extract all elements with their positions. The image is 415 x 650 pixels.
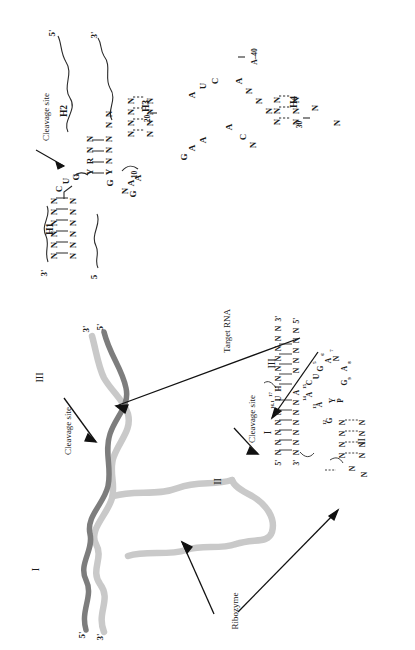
h4-right-nt: N (291, 119, 301, 126)
h3-left-nt: N (126, 109, 136, 116)
target-rna-label: Target RNA (222, 309, 232, 353)
core-bottom-nt: N (292, 430, 301, 435)
h2-lower-nt: N (104, 122, 114, 129)
h4-left-nt: N (272, 108, 282, 115)
h4-right-nt: N (291, 108, 301, 115)
stem2-right-nt: N (358, 420, 367, 425)
ribozyme-label: Ribozyme (230, 593, 240, 630)
core-bottom-nt: N (292, 450, 301, 455)
h2-lower-nt: N (104, 136, 114, 143)
core-res-base-a13: A (315, 402, 324, 407)
h3-right-nt: N (145, 109, 155, 116)
loop-nt: N (248, 142, 258, 149)
core-bottom-nt-a: A (292, 390, 301, 395)
core-top-three-prime: 3' (274, 316, 283, 322)
h4-left-nt: N (272, 97, 282, 104)
core-top-nt: N (274, 410, 283, 415)
h1-lower-nt: N (68, 242, 78, 249)
core-bottom-right-nt: N (292, 328, 301, 333)
h3-right-nt: N (145, 98, 155, 105)
loop-nt: A (187, 145, 197, 152)
core-top-nt: N (274, 440, 283, 445)
bot-three-prime-2: 3' (95, 633, 105, 640)
stem2-right-nt: N (358, 431, 367, 436)
core-res-num-9: 9 (347, 377, 352, 380)
core-top-nt: N (274, 336, 283, 341)
h4-left-nt: N (272, 119, 282, 126)
h4-tail-nt: N (310, 105, 320, 112)
h2-lower-nt: Y (104, 169, 114, 176)
core-res-base-u: U (312, 374, 321, 379)
h1-upper-nt: N (49, 220, 59, 227)
core-bottom-right-nt: N (292, 368, 301, 373)
h3-left-nt: N (126, 98, 136, 105)
core-bottom-right-nt: N (292, 358, 301, 363)
loop-nt: A (187, 92, 197, 99)
core-bottom-right-nt: N (292, 338, 301, 343)
h1-lower-nt: N (68, 253, 78, 260)
core-top-nt: N (274, 326, 283, 331)
loop-nt: A (234, 78, 244, 85)
core-res-base-a8: A (340, 366, 349, 371)
loop-nt: C (238, 134, 248, 141)
core-bottom-nt: N (292, 440, 301, 445)
core-top-nt: N (274, 420, 283, 425)
h2-upper-nt: N (85, 136, 95, 143)
h1-upper-nt: N (49, 209, 59, 216)
h2-upper-nt: N (85, 147, 95, 154)
stem-roman-I: I (30, 568, 41, 571)
stem2-left-nt: N (338, 431, 347, 436)
loop-nt: A (198, 137, 208, 144)
core-top-nt: N (274, 376, 283, 381)
core-top-nt: N (274, 346, 283, 351)
stem2-left-nt: N (338, 442, 347, 447)
cleavage-nt-g: G (71, 173, 81, 180)
h1-lower-nt: N (68, 220, 78, 227)
stem-roman-III: III (34, 373, 45, 383)
loop-nt: A (224, 124, 234, 131)
loop-nt: C (210, 78, 220, 85)
core-res-base-g12: G (325, 418, 334, 424)
h2-upper-nt: Y (85, 169, 95, 176)
core-bottom-right-nt: N (292, 348, 301, 353)
stem-label-h2: H2 (59, 105, 69, 117)
h4-tail-nt: N (332, 120, 342, 127)
top-three-prime-1: 3' (89, 31, 99, 38)
stem2-right-nt: N (358, 453, 367, 458)
core-res-base-n7: N (332, 356, 341, 361)
bot-five-prime-2: 5' (77, 631, 87, 638)
core-bottom-five-prime: 5' (292, 318, 301, 324)
core-res-base-g9: G (340, 380, 349, 386)
h1-upper-nt: N (49, 253, 59, 260)
h3-right-nt: N (145, 120, 155, 127)
core-top-nt: N (274, 430, 283, 435)
core-top-nt-h: H (274, 386, 283, 392)
core-bottom-nt: N (292, 400, 301, 405)
stem2-left-nt: N (338, 420, 347, 425)
h3-left-nt: N (126, 120, 136, 127)
figure-canvas: 5' 3' 3' 5 Cleavage site H1 H2 H3 H4 10 … (0, 0, 415, 650)
bot-five-prime-1: 5' (95, 323, 105, 330)
h1-upper-nt: N (49, 242, 59, 249)
h1-lower-nt: N (68, 209, 78, 216)
top-five-prime-2: 5 (89, 275, 99, 280)
core-stem-I-label: I (262, 431, 273, 434)
top-five-prime-1: 5' (47, 29, 57, 36)
stem2-right-nt: N (358, 442, 367, 447)
position-number-40: A–40 (250, 48, 259, 65)
top-cleavage-site-label: Cleavage site (41, 93, 51, 141)
cleavage-nt-c: C (54, 186, 64, 193)
cleavage-site-ribbon-label: Cleavage site (63, 407, 73, 455)
core-res-num-5: 5 (312, 361, 317, 364)
bot-three-prime-1: 3' (81, 325, 91, 332)
loop-nt: N (244, 88, 254, 95)
h3-left-nt: N (126, 131, 136, 138)
loop-nt: G (179, 153, 189, 160)
stem2-loop-nt: N (348, 466, 357, 471)
h1-lower-nt: N (68, 231, 78, 238)
core-res-base-a14: A (305, 392, 314, 397)
core-top-five-prime: 5' (274, 460, 283, 466)
core-top-nt: N (274, 366, 283, 371)
cleavage-site-core-label: Cleavage site (247, 395, 257, 443)
core-res-base-g5: G (316, 366, 325, 372)
